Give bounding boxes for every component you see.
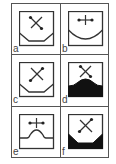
panel-d: d: [61, 55, 109, 106]
panel-label: f: [62, 147, 65, 157]
concave-arc-floor-diagram: [68, 11, 104, 47]
panel-label: a: [13, 44, 19, 54]
diagonal-cross-icon: [79, 65, 92, 78]
diagonal-cross-icon: [29, 67, 44, 82]
panel-c: c: [12, 55, 60, 106]
horizontal-cross-icon: [77, 15, 93, 25]
panel-b: b: [61, 4, 109, 55]
diagonal-cross-icon: [78, 118, 93, 133]
trapezoid-floor-diagram: [19, 11, 55, 47]
panel-a: a: [12, 4, 60, 55]
trapezoid-floor-diagram: [19, 62, 55, 98]
panel-label: e: [13, 147, 19, 157]
panel-label: c: [13, 95, 18, 105]
convex-mound-floor-diagram: [68, 62, 104, 98]
panel-e: e: [12, 107, 60, 158]
trapezoid-floor-diagram: [68, 114, 104, 150]
horizontal-cross-icon: [28, 118, 44, 128]
panel-label: b: [62, 44, 68, 54]
panel-f: f: [61, 107, 109, 158]
convex-mound-floor-diagram: [19, 114, 55, 150]
panel-label: d: [62, 95, 68, 105]
diagonal-cross-icon: [29, 16, 43, 30]
